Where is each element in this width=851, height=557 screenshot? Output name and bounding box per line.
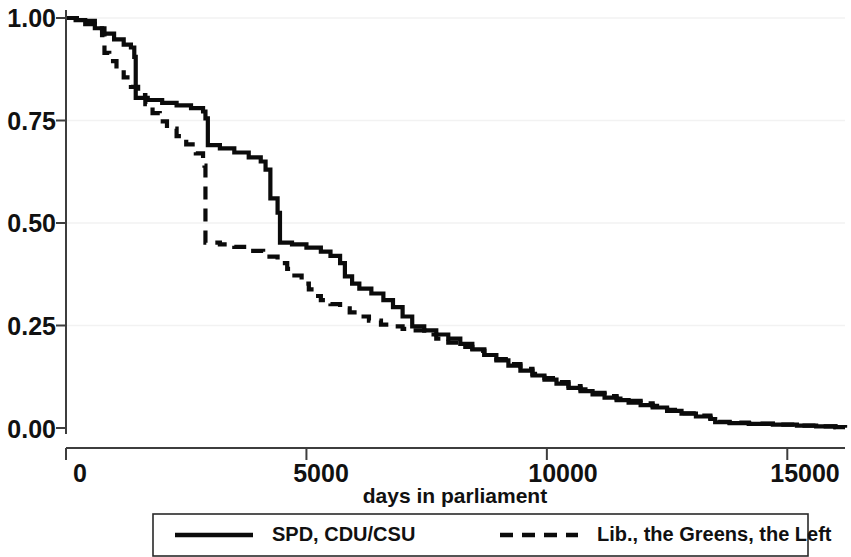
y-tick-label: 0.00 [7,415,56,443]
y-tick-label: 0.50 [7,209,56,237]
y-tick-label: 0.25 [7,312,56,340]
y-tick-label: 0.75 [7,107,56,135]
legend-label-spd-cdu-csu: SPD, CDU/CSU [272,523,415,545]
survival-chart: 1.00 0.75 0.50 0.25 0.00 0 5000 10000 15… [0,0,851,557]
chart-canvas: 1.00 0.75 0.50 0.25 0.00 0 5000 10000 15… [0,0,851,557]
gridlines [66,18,845,326]
x-tick-label: 15000 [770,459,840,487]
legend: SPD, CDU/CSU Lib., the Greens, the Left [153,514,832,556]
x-axis-tick-labels: 0 5000 10000 15000 [73,459,840,487]
x-axis-title: days in parliament [363,484,547,507]
legend-label-lib-greens-left: Lib., the Greens, the Left [597,523,832,545]
x-tick-label: 5000 [293,459,349,487]
y-tick-label: 1.00 [7,4,56,32]
x-tick-label: 10000 [528,459,598,487]
x-tick-label: 0 [73,459,87,487]
x-axis-ticks [66,448,787,460]
y-axis-tick-labels: 1.00 0.75 0.50 0.25 0.00 [7,4,56,443]
y-axis-ticks [56,18,66,428]
